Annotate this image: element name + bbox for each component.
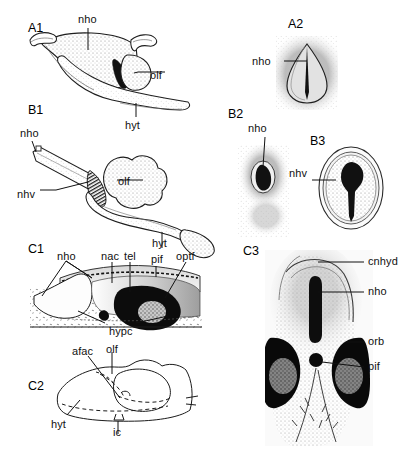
panel-c2-artwork [57, 352, 198, 434]
panel-id-c3: C3 [243, 245, 259, 258]
anatomical-figure-plate: A1 A2 B1 B2 B3 C1 C2 C3 nho olf hyt nho … [0, 0, 415, 449]
panel-b3-artwork [312, 145, 386, 231]
panel-b2-artwork [238, 137, 290, 237]
label-c2-afac: afac [72, 346, 93, 357]
label-b1-olf: olf [118, 176, 130, 187]
label-b1-nhv: nhv [17, 189, 35, 200]
label-c2-olf: olf [106, 344, 118, 355]
label-c1-nac: nac [101, 251, 119, 262]
label-b1-hyt: hyt [152, 238, 167, 249]
panel-id-c1: C1 [28, 243, 44, 256]
label-c3-pif: pif [368, 361, 380, 372]
label-b2-nho: nho [248, 123, 267, 134]
panel-id-b2: B2 [228, 108, 243, 121]
panel-id-b3: B3 [310, 135, 325, 148]
label-c1-optf: optf [176, 251, 195, 262]
panel-id-a1: A1 [28, 22, 43, 35]
panel-b1-artwork [32, 141, 214, 258]
label-c2-hyt: hyt [51, 419, 66, 430]
label-c1-hypc: hypc [109, 326, 133, 337]
panel-c1-artwork [30, 261, 202, 330]
panel-c3-artwork [262, 244, 373, 446]
panel-a2-artwork [267, 30, 347, 118]
label-c1-pif: pif [151, 254, 163, 265]
label-a1-olf: olf [150, 70, 162, 81]
label-c1-tel: tel [124, 251, 136, 262]
label-c3-orb: orb [368, 336, 384, 347]
panel-id-b1: B1 [28, 104, 43, 117]
panel-id-c2: C2 [28, 380, 44, 393]
panel-a1-artwork [30, 28, 190, 117]
label-b3-nhv: nhv [289, 168, 307, 179]
label-c3-nho: nho [368, 286, 387, 297]
label-a1-nho: nho [78, 14, 97, 25]
label-c1-nho: nho [57, 251, 76, 262]
label-a1-hyt: hyt [125, 120, 140, 131]
label-b1-nho: nho [20, 128, 39, 139]
label-c2-ic: ic [113, 427, 121, 438]
label-c3-cnhyd: cnhyd [368, 256, 398, 267]
panel-id-a2: A2 [288, 18, 303, 31]
label-a2-nho: nho [252, 56, 271, 67]
figure-artwork [0, 0, 415, 449]
